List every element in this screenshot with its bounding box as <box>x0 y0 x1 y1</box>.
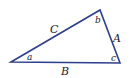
side-label-a: A <box>112 32 121 45</box>
angle-label-b: b <box>95 15 101 25</box>
side-label-c: C <box>50 23 59 36</box>
triangle-diagram: C A B a b c <box>0 0 133 78</box>
side-label-b: B <box>60 65 69 78</box>
angle-label-a: a <box>27 52 32 62</box>
angle-label-c: c <box>111 53 116 63</box>
